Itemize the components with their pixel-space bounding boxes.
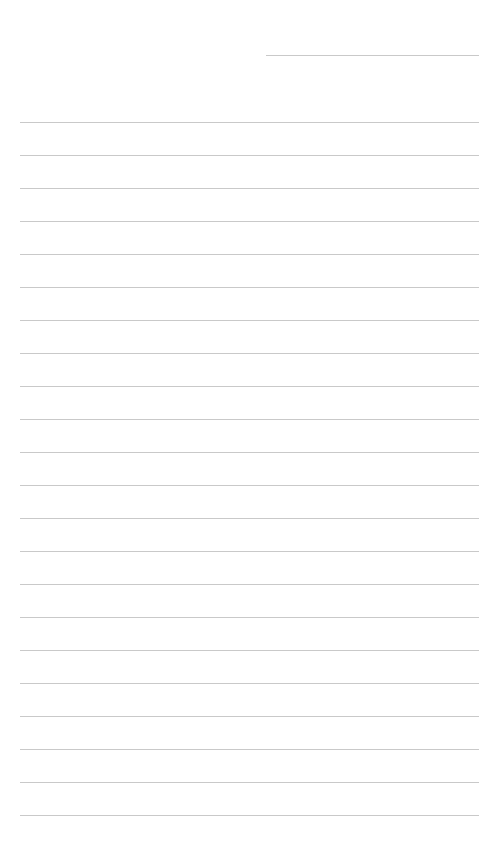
ruled-line <box>20 452 479 453</box>
ruled-line <box>20 782 479 783</box>
ruled-line <box>20 188 479 189</box>
ruled-line <box>20 287 479 288</box>
ruled-line <box>20 353 479 354</box>
ruled-line <box>20 254 479 255</box>
ruled-line <box>20 584 479 585</box>
ruled-line <box>20 617 479 618</box>
ruled-line <box>20 386 479 387</box>
ruled-line <box>20 650 479 651</box>
ruled-line <box>20 518 479 519</box>
ruled-line <box>20 749 479 750</box>
ruled-line <box>20 320 479 321</box>
ruled-line <box>20 683 479 684</box>
ruled-line <box>20 122 479 123</box>
ruled-line <box>20 815 479 816</box>
header-line <box>266 55 479 56</box>
ruled-line <box>20 419 479 420</box>
ruled-line <box>20 221 479 222</box>
ruled-line <box>20 716 479 717</box>
ruled-line <box>20 551 479 552</box>
ruled-line <box>20 485 479 486</box>
ruled-line <box>20 155 479 156</box>
